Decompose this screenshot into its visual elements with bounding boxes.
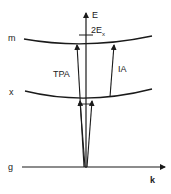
band-x [25, 89, 152, 98]
ia-arrow [110, 45, 114, 97]
tpa-label: TPA [53, 69, 70, 79]
ia-label: IA [118, 64, 127, 74]
photon-arrow-right [87, 101, 92, 167]
photon-arrow-left [80, 101, 85, 167]
band-x-label: x [9, 87, 14, 97]
energy-axis-label: E [92, 10, 98, 20]
two-ex-label: 2Ex [91, 25, 105, 37]
energy-band-diagram: E 2Ex m x g k TPA IA [0, 0, 171, 194]
band-m-label: m [8, 33, 16, 43]
k-axis-label: k [150, 175, 156, 185]
ground-level-label: g [8, 162, 13, 172]
band-m [24, 36, 152, 44]
